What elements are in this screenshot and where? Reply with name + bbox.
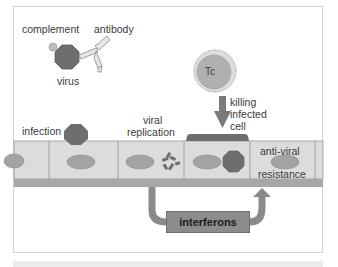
label-replication: replication [127, 126, 175, 138]
label-antibody: antibody [94, 23, 134, 35]
intracellular-virus-icon [223, 151, 244, 172]
label-infection: infection [22, 125, 61, 137]
virus-icon [55, 45, 79, 69]
label-killing: killing [230, 96, 256, 108]
label-tc: Tc [205, 66, 215, 78]
label-complement: complement [22, 23, 79, 35]
interferon-path-left [152, 187, 166, 222]
interferon-path-right [250, 196, 262, 222]
interferons-box: interferons [166, 211, 250, 233]
damaged-membrane [186, 134, 249, 141]
label-anti-viral: anti-viral [260, 145, 300, 157]
label-virus: virus [57, 75, 79, 87]
antibody-icon [79, 36, 110, 72]
label-viral: viral [143, 114, 162, 126]
label-infected: infected [230, 108, 267, 120]
infecting-virus-icon [64, 124, 88, 145]
label-cell: cell [230, 120, 246, 132]
interferon-arrow-head-icon [253, 188, 271, 197]
label-resistance: resistance [258, 168, 306, 180]
basement-membrane [14, 179, 323, 187]
complement-icon [49, 43, 57, 51]
killing-arrow-icon [214, 96, 231, 128]
